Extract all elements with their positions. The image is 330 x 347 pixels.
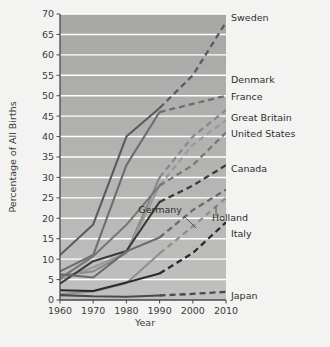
- series-label-great-britain: Great Britain: [231, 112, 292, 123]
- series-label-japan: Japan: [230, 290, 258, 301]
- series-label-sweden: Sweden: [231, 12, 269, 23]
- x-tick-label-1960: 1960: [48, 305, 72, 316]
- y-tick-label-10: 10: [42, 254, 54, 265]
- y-tick-label-45: 45: [42, 111, 54, 122]
- y-tick-label-60: 60: [42, 49, 54, 60]
- series-label-denmark: Denmark: [231, 74, 275, 85]
- x-axis-title: Year: [134, 317, 155, 328]
- y-tick-label-0: 0: [48, 294, 54, 305]
- series-label-united-states: United States: [231, 128, 295, 139]
- y-tick-label-20: 20: [42, 213, 54, 224]
- y-tick-label-40: 40: [42, 131, 54, 142]
- y-tick-label-50: 50: [42, 90, 54, 101]
- y-axis-title: Percentage of All Births: [7, 101, 18, 212]
- y-tick-label-30: 30: [42, 172, 54, 183]
- series-label-holland: Holland: [212, 212, 248, 223]
- y-tick-label-70: 70: [42, 8, 54, 19]
- y-tick-label-25: 25: [42, 192, 54, 203]
- x-tick-label-1990: 1990: [148, 305, 172, 316]
- x-tick-label-2000: 2000: [181, 305, 205, 316]
- x-tick-label-2010: 2010: [214, 305, 238, 316]
- y-tick-label-65: 65: [42, 29, 54, 40]
- chart-canvas: 0510152025303540455055606570196019701980…: [0, 0, 330, 347]
- chart-root: 0510152025303540455055606570196019701980…: [0, 0, 330, 347]
- series-label-germany: Germany: [138, 204, 182, 215]
- y-tick-label-55: 55: [42, 70, 54, 81]
- x-tick-label-1980: 1980: [114, 305, 138, 316]
- series-label-italy: Italy: [231, 228, 252, 239]
- series-label-france: France: [231, 91, 263, 102]
- y-tick-label-5: 5: [48, 274, 54, 285]
- x-tick-label-1970: 1970: [81, 305, 105, 316]
- series-label-canada: Canada: [231, 163, 267, 174]
- y-tick-label-35: 35: [42, 151, 54, 162]
- y-tick-label-15: 15: [42, 233, 54, 244]
- line-chart: 0510152025303540455055606570196019701980…: [0, 0, 330, 347]
